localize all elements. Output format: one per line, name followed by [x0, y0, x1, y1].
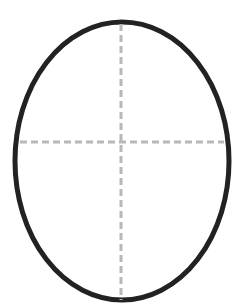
ellipse-diagram	[0, 0, 252, 304]
